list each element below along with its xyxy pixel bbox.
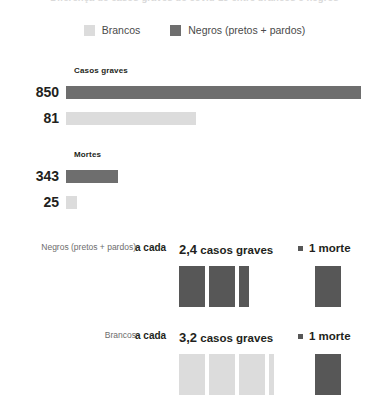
legend-item-label: Brancos <box>102 24 141 36</box>
bar-row: 343 <box>0 169 118 183</box>
legend-item-label: Negros (pretos + pardos) <box>188 24 305 36</box>
equals-square-icon <box>298 334 303 339</box>
bar-row: 850 <box>0 85 361 99</box>
legend-item-negros: Negros (pretos + pardos) <box>170 24 305 36</box>
ratio-deaths-blocks <box>315 354 341 395</box>
bar-value-label: 25 <box>0 195 66 209</box>
chart-legend: Brancos Negros (pretos + pardos) <box>0 24 389 36</box>
legend-item-brancos: Brancos <box>84 24 141 36</box>
ratio-cases-label: 2,4 casos graves <box>179 242 273 257</box>
chart-title-cropped: Diferença de casos graves de covid-19 en… <box>0 0 389 5</box>
unit-block <box>239 266 249 307</box>
ratio-cases-number: 3,2 <box>179 330 197 345</box>
ratio-cases-text: casos graves <box>200 332 273 344</box>
bar-brancos <box>66 196 77 209</box>
ratio-deaths-blocks <box>315 266 341 307</box>
ratio-a-cada-label: a cada <box>135 330 166 341</box>
square-swatch-icon <box>84 25 95 36</box>
bar-row: 81 <box>0 111 196 125</box>
ratio-deaths-label: 1 morte <box>298 330 351 342</box>
unit-block <box>315 266 341 307</box>
ratio-cases-blocks <box>179 266 249 307</box>
ratio-deaths-label: 1 morte <box>298 242 351 254</box>
bar-value-label: 343 <box>0 169 66 183</box>
bar-value-label: 81 <box>0 111 66 125</box>
bar-negros <box>66 170 118 183</box>
unit-block <box>269 354 274 395</box>
equals-square-icon <box>298 246 303 251</box>
ratio-cases-number: 2,4 <box>179 242 197 257</box>
bar-value-label: 850 <box>0 85 66 99</box>
ratio-cases-label: 3,2 casos graves <box>179 330 273 345</box>
ratio-deaths-text: 1 morte <box>309 330 351 342</box>
unit-block <box>179 266 205 307</box>
section-title: Casos graves <box>74 66 128 75</box>
bar-row: 25 <box>0 195 77 209</box>
ratio-deaths-text: 1 morte <box>309 242 351 254</box>
unit-block <box>179 354 205 395</box>
ratio-a-cada-label: a cada <box>135 242 166 253</box>
unit-block <box>239 354 265 395</box>
bar-negros <box>66 86 361 99</box>
section-title: Mortes <box>74 150 101 159</box>
unit-block <box>209 354 235 395</box>
ratio-cases-text: casos graves <box>200 244 273 256</box>
unit-block <box>209 266 235 307</box>
ratio-cases-blocks <box>179 354 274 395</box>
ratio-row-negros: Negros (pretos + pardos) a cada 2,4 caso… <box>0 242 389 322</box>
ratio-row-brancos: Brancos a cada 3,2 casos graves 1 morte <box>0 330 389 410</box>
ratio-group-label: Brancos <box>105 330 136 340</box>
square-swatch-icon <box>170 25 181 36</box>
unit-block <box>315 354 341 395</box>
bar-brancos <box>66 112 196 125</box>
ratio-group-label: Negros (pretos + pardos) <box>41 242 136 252</box>
page-title: Diferença de casos graves de covid-19 en… <box>0 0 389 3</box>
